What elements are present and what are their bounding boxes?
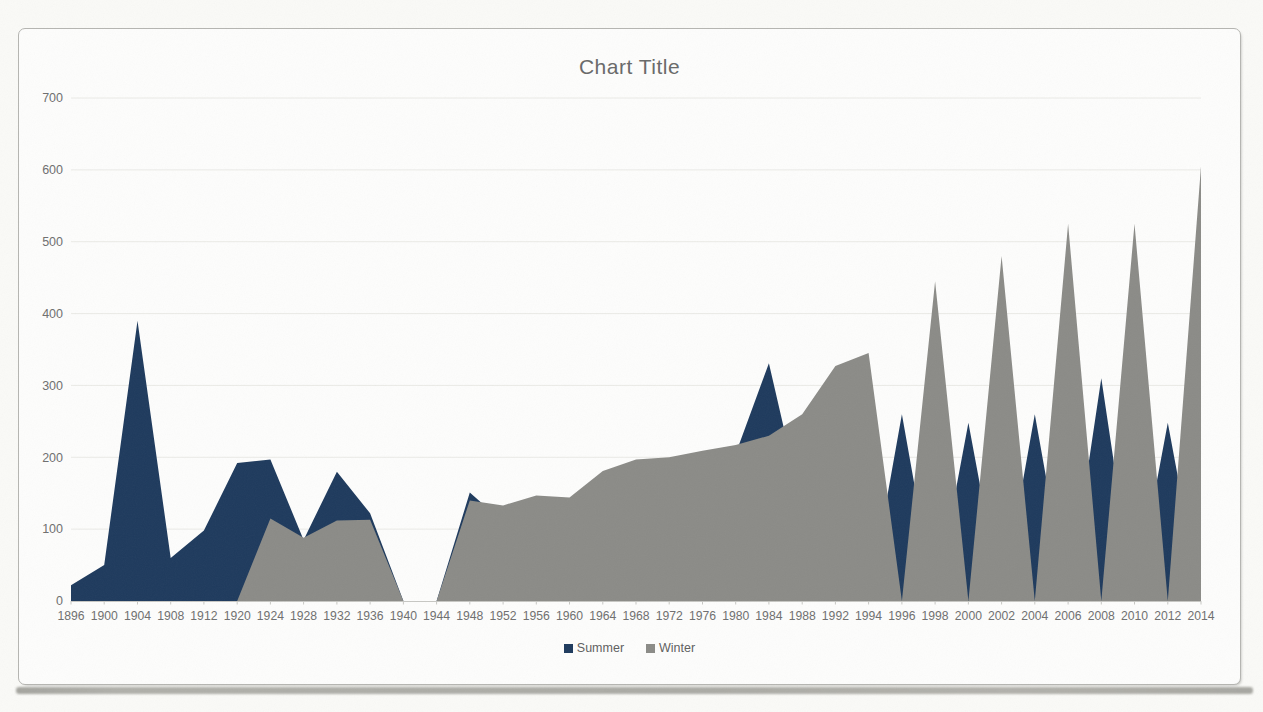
summer-swatch-icon: [564, 644, 573, 653]
scan-bottom-shadow: [16, 687, 1253, 694]
x-tick-label-1904: 1904: [124, 609, 151, 623]
x-tick-label-2002: 2002: [988, 609, 1015, 623]
x-tick-label-1952: 1952: [490, 609, 517, 623]
y-tick-label-700: 700: [42, 91, 63, 105]
x-tick-label-1998: 1998: [922, 609, 949, 623]
legend-label-winter: Winter: [659, 641, 695, 655]
scanned-page: Chart Title 0100200300400500600700189619…: [0, 0, 1263, 712]
winter-swatch-icon: [646, 644, 655, 653]
y-tick-label-400: 400: [42, 307, 63, 321]
x-tick-label-1908: 1908: [157, 609, 184, 623]
x-tick-label-2000: 2000: [955, 609, 982, 623]
x-tick-label-2010: 2010: [1121, 609, 1148, 623]
x-tick-label-1920: 1920: [224, 609, 251, 623]
x-tick-label-1980: 1980: [722, 609, 749, 623]
x-tick-label-1912: 1912: [190, 609, 217, 623]
x-tick-label-1924: 1924: [257, 609, 284, 623]
x-tick-label-2008: 2008: [1088, 609, 1115, 623]
y-tick-label-100: 100: [42, 522, 63, 536]
x-tick-label-2014: 2014: [1187, 609, 1214, 623]
legend-item-winter: Winter: [646, 641, 695, 655]
x-tick-label-1936: 1936: [357, 609, 384, 623]
y-tick-label-200: 200: [42, 451, 63, 465]
x-tick-label-1996: 1996: [888, 609, 915, 623]
y-tick-label-0: 0: [56, 594, 63, 608]
x-tick-label-1928: 1928: [290, 609, 317, 623]
x-tick-label-1984: 1984: [755, 609, 782, 623]
x-tick-label-1944: 1944: [423, 609, 450, 623]
x-tick-label-2004: 2004: [1021, 609, 1048, 623]
x-tick-label-1976: 1976: [689, 609, 716, 623]
chart-legend: Summer Winter: [19, 641, 1240, 655]
chart-area: Chart Title 0100200300400500600700189619…: [18, 28, 1241, 685]
x-tick-label-1940: 1940: [390, 609, 417, 623]
x-tick-label-2006: 2006: [1055, 609, 1082, 623]
x-tick-label-1972: 1972: [656, 609, 683, 623]
x-tick-label-1900: 1900: [91, 609, 118, 623]
x-tick-label-1960: 1960: [556, 609, 583, 623]
x-tick-label-2012: 2012: [1154, 609, 1181, 623]
x-tick-label-1964: 1964: [589, 609, 616, 623]
y-tick-label-600: 600: [42, 163, 63, 177]
y-tick-label-300: 300: [42, 379, 63, 393]
x-tick-label-1988: 1988: [789, 609, 816, 623]
x-tick-label-1932: 1932: [323, 609, 350, 623]
x-tick-label-1968: 1968: [622, 609, 649, 623]
x-tick-label-1956: 1956: [523, 609, 550, 623]
plot-canvas: 0100200300400500600700189619001904190819…: [19, 29, 1242, 686]
x-tick-label-1948: 1948: [456, 609, 483, 623]
legend-item-summer: Summer: [564, 641, 624, 655]
x-tick-label-1992: 1992: [822, 609, 849, 623]
legend-label-summer: Summer: [577, 641, 624, 655]
y-tick-label-500: 500: [42, 235, 63, 249]
x-tick-label-1994: 1994: [855, 609, 882, 623]
x-tick-label-1896: 1896: [57, 609, 84, 623]
